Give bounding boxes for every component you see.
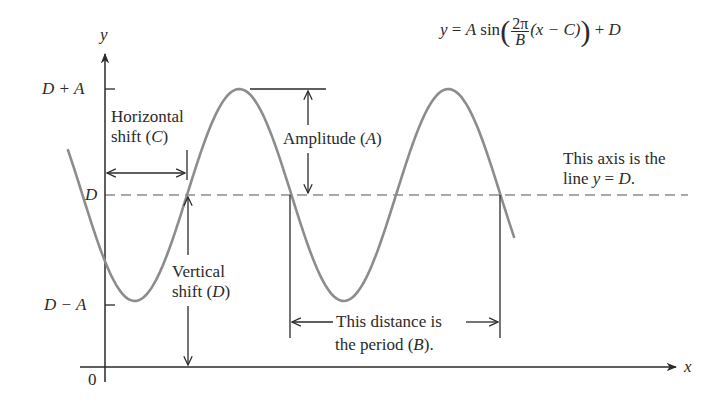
eq-amplitude: A <box>466 20 476 39</box>
vs-post: ) <box>224 282 230 301</box>
amplitude-label: Amplitude (A) <box>283 129 382 149</box>
eq-fn: sin <box>480 20 500 39</box>
amp-post: ) <box>376 129 382 148</box>
hs-var: C <box>151 127 162 146</box>
vs-pre: shift ( <box>172 282 212 301</box>
horizontal-shift-line2: shift (C) <box>111 127 184 147</box>
tick-label-d-minus-a: D − A <box>44 295 86 315</box>
vertical-shift-line1: Vertical <box>172 262 230 282</box>
amp-pre: Amplitude ( <box>283 129 366 148</box>
eq-frac-den: B <box>511 32 529 47</box>
tick-label-d-plus-a: D + A <box>42 79 84 99</box>
vertical-shift-line2: shift (D) <box>172 282 230 302</box>
an-eq: = <box>600 169 618 188</box>
eq-left-paren: ( <box>500 14 510 47</box>
eq-plus: + <box>595 20 605 39</box>
eq-tail: D <box>608 20 620 39</box>
eq-lhs: y <box>440 20 448 39</box>
an-pre: line <box>563 169 593 188</box>
amp-var: A <box>366 129 376 148</box>
horizontal-shift-label: Horizontal shift (C) <box>111 107 184 147</box>
eq-equals: = <box>452 20 462 39</box>
axis-note-line2: line y = D. <box>563 169 665 189</box>
pd-post: ). <box>424 335 434 354</box>
tick-label-d: D <box>85 185 97 205</box>
eq-right-paren: ) <box>580 14 590 47</box>
origin-label: 0 <box>88 370 97 390</box>
sinusoid-equation: y = A sin(2πB(x − C)) + D <box>440 8 621 52</box>
vertical-shift-label: Vertical shift (D) <box>172 262 230 302</box>
pd-pre: the period ( <box>335 335 413 354</box>
an-post: . <box>631 169 635 188</box>
pd-var: B <box>413 335 423 354</box>
hs-post: ) <box>162 127 168 146</box>
eq-frac-num: 2π <box>511 16 529 32</box>
axis-note-line1: This axis is the <box>563 149 665 169</box>
period-label-line2: the period (B). <box>335 335 434 355</box>
horizontal-shift-line1: Horizontal <box>111 107 184 127</box>
vs-var: D <box>212 282 224 301</box>
eq-fraction: 2πB <box>511 16 529 47</box>
axis-note-label: This axis is the line y = D. <box>563 149 665 189</box>
eq-inner: (x − C) <box>530 20 580 39</box>
sinusoid-diagram: y x 0 D + A D D − A y = A sin(2πB(x − C)… <box>0 0 723 415</box>
x-axis-label: x <box>684 357 692 377</box>
period-label-line1: This distance is <box>336 312 442 332</box>
an-D: D <box>618 169 630 188</box>
hs-pre: shift ( <box>111 127 151 146</box>
y-axis-label: y <box>100 25 108 45</box>
